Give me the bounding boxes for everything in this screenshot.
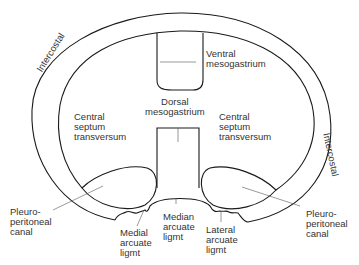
label-pleuroperitoneal-right: Pleuro- peritoneal canal [306, 209, 348, 239]
label-median-arcuate: Median arcuate ligmt [163, 212, 195, 242]
label-ventral-mesogastrium: Ventral mesogastrium [206, 49, 266, 69]
label-medial-arcuate: Medial arcuate ligmt [120, 228, 152, 258]
label-dorsal-mesogastrium: Dorsal mesogastrium [145, 97, 205, 117]
label-central-septum-left: Central septum transversum [74, 112, 126, 142]
right-pleuroperitoneal-canal [201, 167, 276, 209]
left-pleuroperitoneal-canal [82, 167, 157, 209]
leader-pleuro-right [242, 187, 300, 206]
ventral-mesogastrium-shape [157, 33, 203, 90]
label-pleuroperitoneal-left: Pleuro- peritoneal canal [10, 207, 52, 237]
leader-pleuro-left [53, 186, 103, 210]
label-central-septum-right: Central septum transversum [219, 112, 271, 142]
label-lateral-arcuate: Lateral arcuate ligmt [206, 225, 238, 255]
